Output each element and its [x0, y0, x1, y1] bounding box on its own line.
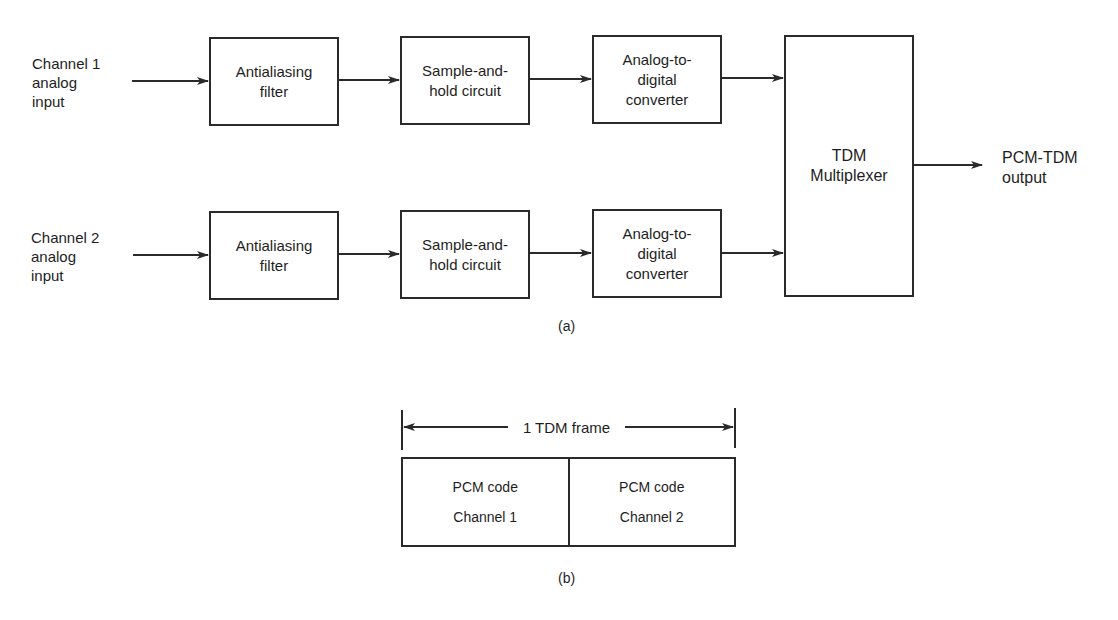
tdm-frame: PCM code Channel 1 PCM code Channel 2: [401, 457, 736, 547]
block-label: Analog-to- digital converter: [622, 50, 691, 110]
slot-line2: Channel 1: [453, 502, 517, 532]
block-label: TDM Multiplexer: [810, 146, 887, 186]
ch1-sample-hold-block: Sample-and- hold circuit: [400, 36, 530, 125]
frame-slot-channel2: PCM code Channel 2: [570, 459, 735, 545]
block-label: Antialiasing filter: [236, 236, 313, 276]
channel2-input-label: Channel 2 analog input: [31, 228, 99, 285]
block-label: Sample-and- hold circuit: [422, 61, 508, 101]
channel1-input-label: Channel 1 analog input: [32, 54, 100, 111]
tdm-frame-label: 1 TDM frame: [508, 418, 625, 437]
tdm-multiplexer-block: TDM Multiplexer: [784, 35, 914, 297]
ch1-adc-block: Analog-to- digital converter: [592, 35, 722, 124]
ch2-antialiasing-filter-block: Antialiasing filter: [209, 211, 339, 300]
slot-line1: PCM code: [453, 472, 518, 502]
slot-line2: Channel 2: [620, 502, 684, 532]
ch1-antialiasing-filter-block: Antialiasing filter: [209, 37, 339, 126]
caption-a: (a): [558, 318, 575, 334]
pcm-tdm-output-label: PCM-TDM output: [1002, 148, 1078, 188]
block-label: Antialiasing filter: [236, 62, 313, 102]
block-label: Analog-to- digital converter: [622, 224, 691, 284]
slot-line1: PCM code: [619, 472, 684, 502]
ch2-adc-block: Analog-to- digital converter: [592, 209, 722, 298]
caption-b: (b): [558, 570, 575, 586]
ch2-sample-hold-block: Sample-and- hold circuit: [400, 210, 530, 299]
frame-slot-channel1: PCM code Channel 1: [403, 459, 570, 545]
block-label: Sample-and- hold circuit: [422, 235, 508, 275]
